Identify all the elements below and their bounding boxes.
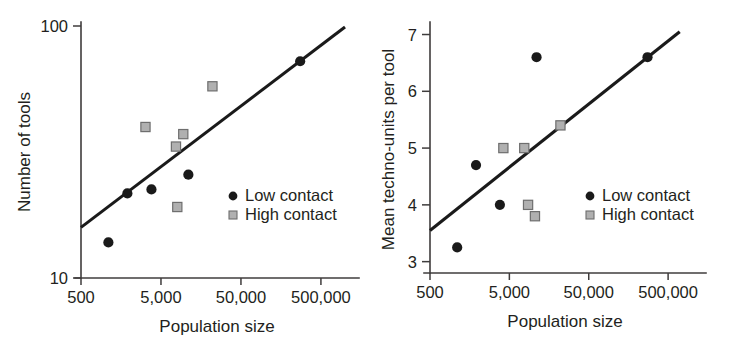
y-tick-label: 4: [408, 196, 417, 214]
x-tick-label: 50,000: [564, 283, 614, 301]
data-point-low-contact: [146, 184, 156, 194]
legend-label: High contact: [245, 205, 337, 223]
data-point-low-contact: [471, 160, 481, 170]
x-axis-title: Population size: [507, 312, 622, 331]
y-tick-label: 5: [408, 139, 417, 157]
y-axis-title: Mean techno-units per tool: [379, 49, 398, 250]
panel-number-of-tools: 5005,00050,000500,00010100Population siz…: [0, 0, 372, 358]
y-tick-label: 3: [408, 253, 417, 271]
data-point-low-contact: [452, 242, 462, 252]
data-point-high-contact: [556, 121, 565, 130]
scatter-plot-number-of-tools: 5005,00050,000500,00010100Population siz…: [0, 0, 372, 358]
legend-marker-low-contact: [586, 192, 595, 201]
x-tick-label: 500,000: [638, 283, 698, 301]
legend-marker-high-contact: [229, 211, 237, 219]
y-tick-label: 6: [408, 82, 417, 100]
data-point-low-contact: [295, 56, 305, 66]
y-tick-label: 100: [40, 17, 68, 35]
y-tick-label: 10: [50, 269, 68, 287]
x-tick-label: 50,000: [216, 288, 266, 306]
x-tick-label: 500: [67, 288, 95, 306]
x-tick-label: 500,000: [291, 288, 351, 306]
x-axis-title: Population size: [159, 317, 274, 336]
data-point-high-contact: [171, 142, 180, 151]
legend-marker-high-contact: [586, 211, 594, 219]
legend-label: Low contact: [602, 186, 690, 204]
x-tick-label: 5,000: [489, 283, 530, 301]
figure-root: 5005,00050,000500,00010100Population siz…: [0, 0, 744, 358]
y-axis-title: Number of tools: [15, 92, 34, 212]
panel-mean-techno-units: 5005,00050,000500,00034567Population siz…: [372, 0, 744, 358]
data-point-high-contact: [208, 82, 217, 91]
legend-marker-low-contact: [229, 192, 238, 201]
legend-label: High contact: [602, 205, 694, 223]
data-point-high-contact: [523, 200, 532, 209]
data-point-low-contact: [103, 237, 113, 247]
data-point-high-contact: [530, 212, 539, 221]
x-tick-label: 5,000: [140, 288, 181, 306]
data-point-low-contact: [642, 52, 652, 62]
x-tick-label: 500: [416, 283, 444, 301]
scatter-plot-mean-techno-units: 5005,00050,000500,00034567Population siz…: [372, 0, 744, 358]
y-tick-label: 7: [408, 26, 417, 44]
data-point-high-contact: [141, 122, 150, 131]
data-point-low-contact: [531, 52, 541, 62]
data-point-high-contact: [179, 130, 188, 139]
data-point-high-contact: [520, 143, 529, 152]
data-point-low-contact: [122, 188, 132, 198]
data-point-high-contact: [499, 143, 508, 152]
legend-label: Low contact: [245, 186, 333, 204]
data-point-low-contact: [495, 200, 505, 210]
data-point-low-contact: [183, 170, 193, 180]
data-point-high-contact: [173, 202, 182, 211]
